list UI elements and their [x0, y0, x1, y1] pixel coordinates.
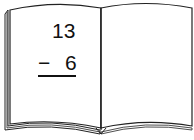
subtrahend: 6 — [65, 52, 77, 73]
minus-sign: − — [38, 52, 50, 73]
open-book-illustration — [0, 0, 194, 140]
right-page — [101, 4, 192, 129]
answer-line — [38, 75, 76, 77]
right-page-stack — [101, 125, 192, 134]
minuend: 13 — [52, 20, 75, 41]
